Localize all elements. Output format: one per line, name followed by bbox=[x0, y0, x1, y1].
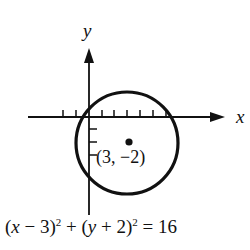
eq-plus: + ( bbox=[61, 216, 88, 237]
circle-graph: x y (3, −2) bbox=[0, 0, 250, 250]
eq-var-x: x bbox=[11, 216, 19, 237]
center-point bbox=[125, 138, 132, 145]
y-axis-arrow-icon bbox=[84, 48, 94, 63]
eq-term1: − 3) bbox=[20, 216, 56, 237]
center-label: (3, −2) bbox=[96, 147, 145, 168]
circle-equation: (x − 3)2 + (y + 2)2 = 16 bbox=[5, 216, 177, 238]
y-axis-label: y bbox=[81, 20, 92, 41]
eq-term2: + 2) bbox=[96, 216, 132, 237]
x-axis-arrow-icon bbox=[210, 112, 225, 122]
x-axis-label: x bbox=[235, 106, 245, 127]
eq-equals: = 16 bbox=[138, 216, 177, 237]
x-axis-ticks bbox=[63, 110, 166, 117]
